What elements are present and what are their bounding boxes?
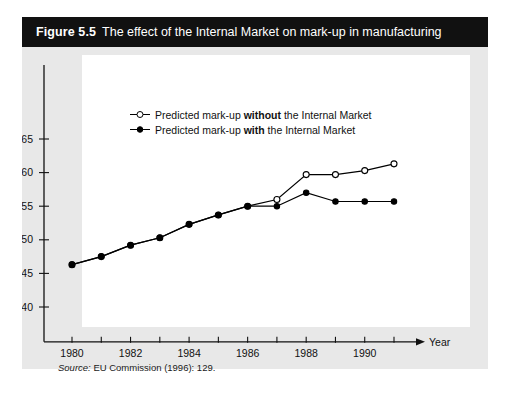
legend-label-without: Predicted mark-up without the Internal M… — [155, 109, 372, 121]
legend-text-prefix-1: Predicted mark-up — [155, 124, 244, 136]
source-label: Source: — [58, 362, 91, 373]
page-title: The effect of the Internal Market on mar… — [102, 25, 442, 39]
data-point — [333, 199, 338, 204]
data-point — [274, 196, 280, 202]
y-axis-tick-label: 0.155 — [22, 200, 33, 212]
y-axis-tick-label: 0.150 — [22, 233, 33, 245]
data-point — [245, 204, 250, 209]
data-point — [69, 262, 74, 267]
data-point — [99, 254, 104, 259]
filled-circle-marker-icon — [130, 124, 150, 135]
x-axis-tick-label: 1982 — [119, 347, 143, 359]
data-point — [128, 242, 133, 247]
figure-panel: Figure 5.5 The effect of the Internal Ma… — [22, 17, 488, 369]
data-point — [391, 199, 396, 204]
data-point — [332, 172, 338, 178]
legend-text-suffix-1: the Internal Market — [265, 124, 355, 136]
source-citation: EU Commission (1996): 129. — [93, 362, 215, 373]
legend-text-emphasis-0: without — [244, 109, 281, 121]
data-point — [391, 161, 397, 167]
data-point — [362, 168, 368, 174]
y-axis-tick-label: 0.140 — [22, 301, 33, 313]
legend-entry-without: Predicted mark-up without the Internal M… — [130, 107, 372, 122]
figure-number-label: Figure 5.5 — [36, 25, 96, 39]
data-point — [186, 222, 191, 227]
open-circle-marker-icon — [130, 109, 150, 120]
figure-source: Source: EU Commission (1996): 129. — [58, 362, 215, 373]
x-axis-arrow-icon — [416, 338, 425, 345]
data-point — [274, 204, 279, 209]
data-point — [362, 199, 367, 204]
data-point — [157, 235, 162, 240]
y-axis-tick-label: 0.165 — [22, 133, 33, 145]
x-axis-tick-label: 1988 — [295, 347, 319, 359]
x-axis-tick-label: 1984 — [177, 347, 201, 359]
data-point — [216, 212, 221, 217]
x-axis-tick-label: 1990 — [353, 347, 377, 359]
x-axis-tick-label: 1980 — [60, 347, 84, 359]
line-chart: Year0.1400.1450.1500.1550.1600.165198019… — [22, 47, 488, 369]
legend-text-emphasis-1: with — [244, 124, 265, 136]
legend-text-prefix-0: Predicted mark-up — [155, 109, 244, 121]
y-axis-tick-label: 0.145 — [22, 267, 33, 279]
x-axis-title: Year — [429, 336, 451, 348]
figure-root: Figure 5.5 The effect of the Internal Ma… — [0, 0, 508, 397]
chart-legend: Predicted mark-up without the Internal M… — [130, 107, 372, 137]
plot-area: Year0.1400.1450.1500.1550.1600.165198019… — [22, 47, 488, 369]
legend-text-suffix-0: the Internal Market — [281, 109, 371, 121]
data-point — [303, 172, 309, 178]
data-point — [303, 190, 308, 195]
legend-entry-with: Predicted mark-up with the Internal Mark… — [130, 122, 372, 137]
legend-label-with: Predicted mark-up with the Internal Mark… — [155, 124, 355, 136]
plot-background — [82, 55, 470, 327]
y-axis-tick-label: 0.160 — [22, 166, 33, 178]
figure-title-bar: Figure 5.5 The effect of the Internal Ma… — [22, 17, 488, 47]
x-axis-tick-label: 1986 — [236, 347, 260, 359]
